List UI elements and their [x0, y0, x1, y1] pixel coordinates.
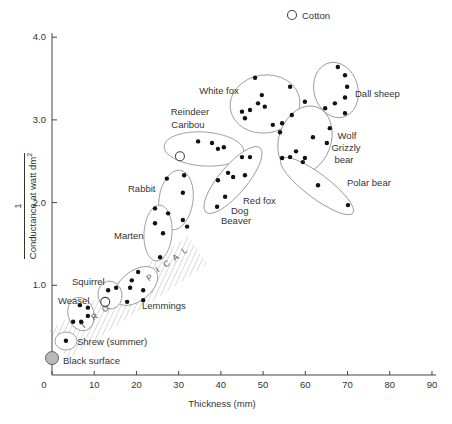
x-tick-label: 10 — [89, 379, 100, 390]
x-tick-label: 30 — [173, 379, 184, 390]
weasel-point — [71, 319, 75, 323]
x-tick-label: 20 — [131, 379, 142, 390]
black-surface-label: Black surface — [63, 355, 120, 366]
wolf-grizzly-bear-label: Grizzly — [331, 142, 360, 153]
red-fox-dog-beaver-label: Beaver — [221, 215, 251, 226]
dall-sheep-point — [303, 100, 307, 104]
white-fox-label: White fox — [199, 85, 239, 96]
white-fox-point — [248, 108, 252, 112]
shrew-summer-point — [64, 339, 68, 343]
rabbit-point — [181, 218, 185, 222]
lemmings-label: Lemmings — [142, 300, 186, 311]
white-fox-point — [263, 104, 267, 108]
x-tick-label: 0 — [41, 379, 46, 390]
lemmings-point — [141, 288, 145, 292]
x-tick-label: 90 — [427, 379, 438, 390]
y-axis-title-superscript: 2 — [26, 153, 33, 157]
cotton-point — [175, 152, 184, 161]
cotton-legend-icon — [288, 11, 297, 20]
white-fox-point — [240, 109, 244, 113]
rabbit-point — [165, 176, 169, 180]
marten-point — [158, 255, 162, 259]
red-fox-dog-beaver-point — [216, 178, 220, 182]
marten-point — [153, 221, 157, 225]
dall-sheep-point — [343, 73, 347, 77]
wolf-grizzly-bear-point — [311, 135, 315, 139]
polar-bear-point — [316, 183, 320, 187]
reindeer-caribou-point — [216, 147, 220, 151]
lemmings-point — [125, 300, 129, 304]
white-fox-point — [256, 101, 260, 105]
white-fox-point — [253, 76, 257, 80]
dall-sheep-point — [333, 101, 337, 105]
weasel-point — [86, 305, 90, 309]
rabbit-point — [185, 224, 189, 228]
x-tick-label: 70 — [342, 379, 353, 390]
red-fox-dog-beaver-point — [240, 155, 244, 159]
white-fox-point — [243, 116, 247, 120]
wolf-grizzly-bear-point — [294, 149, 298, 153]
lemmings-point — [130, 278, 134, 282]
y-tick-label: 1.0 — [33, 279, 46, 290]
weasel-label: Weasel — [58, 295, 90, 306]
y-tick-label: 3.0 — [33, 114, 46, 125]
rabbit-point — [182, 173, 186, 177]
polar-bear-point — [346, 203, 350, 207]
squirrel-point — [106, 288, 110, 292]
marten-point — [161, 231, 165, 235]
white-fox-point — [278, 130, 282, 134]
x-tick-label: 40 — [216, 379, 227, 390]
chart-svg: TROPICAL0102030405060708090Thickness (mm… — [0, 0, 452, 424]
wolf-grizzly-bear-label: bear — [334, 154, 353, 165]
marten-label: Marten — [114, 230, 144, 241]
rabbit-label: Rabbit — [128, 183, 156, 194]
black-surface-point — [46, 352, 59, 365]
reindeer-caribou-point — [196, 139, 200, 143]
y-axis-title-numerator: 1 — [13, 203, 24, 208]
wolf-grizzly-bear-label: Wolf — [338, 130, 357, 141]
dall-sheep-point — [343, 95, 347, 99]
white-fox-point — [290, 113, 294, 117]
wolf-grizzly-bear-point — [280, 156, 284, 160]
red-fox-dog-beaver-point — [243, 173, 247, 177]
dall-sheep-point — [343, 111, 347, 115]
reindeer-caribou-point — [222, 145, 226, 149]
red-fox-dog-beaver-point — [231, 175, 235, 179]
x-tick-label: 50 — [258, 379, 269, 390]
cotton-legend-label: Cotton — [302, 10, 330, 21]
red-fox-dog-beaver-point — [226, 171, 230, 175]
x-tick-label: 80 — [384, 379, 395, 390]
red-fox-dog-beaver-point — [223, 195, 227, 199]
reindeer-caribou-label: Caribou — [171, 119, 204, 130]
shrew-summer-label: Shrew (summer) — [77, 336, 147, 347]
white-fox-point — [288, 85, 292, 89]
wolf-grizzly-bear-point — [328, 126, 332, 130]
wolf-grizzly-bear-point — [325, 141, 329, 145]
rabbit-point — [166, 211, 170, 215]
wolf-grizzly-bear-point — [288, 155, 292, 159]
red-fox-dog-beaver-point — [248, 155, 252, 159]
x-axis-title: Thickness (mm) — [188, 398, 256, 409]
weasel-point — [79, 319, 83, 323]
reindeer-caribou-point — [210, 141, 214, 145]
dall-sheep-label: Dall sheep — [355, 88, 400, 99]
scatter-figure: TROPICAL0102030405060708090Thickness (mm… — [0, 0, 452, 424]
wolf-grizzly-bear-point — [303, 156, 307, 160]
wolf-grizzly-bear-point — [301, 160, 305, 164]
red-fox-dog-beaver-point — [215, 205, 219, 209]
y-axis-title: 1 Conductance at watt dm2 — [8, 136, 44, 276]
lemmings-point — [136, 270, 140, 274]
y-axis-title-denominator: Conductance at watt dm2 — [24, 153, 39, 259]
reindeer-caribou-label: Reindeer — [171, 106, 210, 117]
dall-sheep-point — [345, 85, 349, 89]
squirrel-point — [114, 286, 118, 290]
squirrel-label: Squirrel — [72, 276, 105, 287]
x-tick-label: 60 — [300, 379, 311, 390]
lemmings-point — [128, 286, 132, 290]
white-fox-point — [280, 121, 284, 125]
marten-point — [153, 206, 157, 210]
y-tick-label: 4.0 — [33, 31, 46, 42]
dall-sheep-point — [336, 65, 340, 69]
white-fox-point — [271, 123, 275, 127]
white-fox-point — [260, 93, 264, 97]
